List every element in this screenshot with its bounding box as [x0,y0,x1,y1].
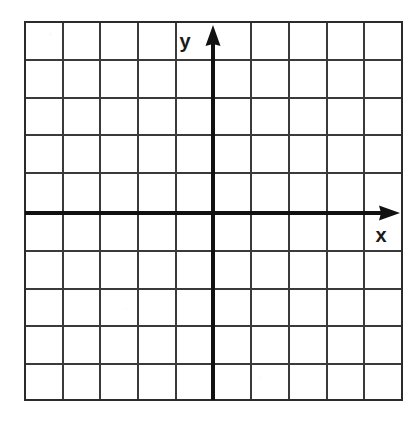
coordinate-grid-svg: y x [0,0,419,429]
coordinate-plane-figure: y x [0,0,419,429]
x-axis-label: x [375,224,386,246]
y-axis-label: y [179,30,191,52]
